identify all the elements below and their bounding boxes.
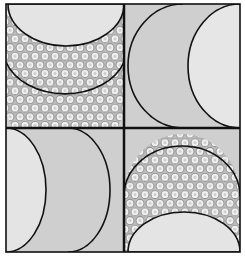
- tile-artwork: [0, 0, 245, 258]
